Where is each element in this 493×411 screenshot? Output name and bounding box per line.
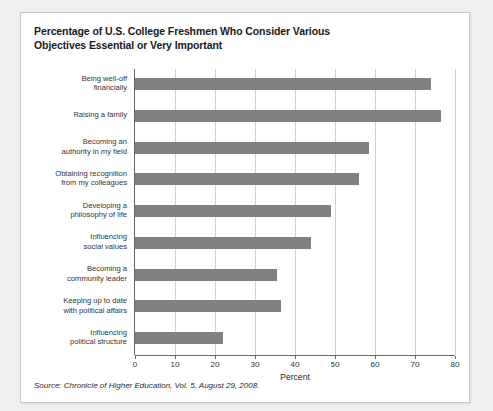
tick-mark-50	[335, 356, 336, 359]
bar-row: Developing aphilosophy of life	[135, 196, 455, 228]
x-axis-ticks: 01020304050607080	[135, 356, 455, 370]
category-label-line: with political affairs	[19, 306, 127, 316]
tick-label-60: 60	[360, 360, 390, 369]
category-label-line: authority in my field	[19, 147, 127, 157]
bar-row: Obtaining recognitionfrom my colleagues	[135, 164, 455, 196]
category-label-line: Influencing	[19, 328, 127, 338]
category-label-line: Becoming a	[19, 264, 127, 274]
bar-row: Influencingsocial values	[135, 228, 455, 260]
bar-series: Being well-offfinanciallyRaising a famil…	[135, 69, 455, 355]
tick-label-30: 30	[240, 360, 270, 369]
category-label-line: political structure	[19, 337, 127, 347]
bar-row: Influencingpolitical structure	[135, 323, 455, 355]
bar	[135, 173, 359, 185]
bar-row: Raising a family	[135, 101, 455, 133]
plot-area: Being well-offfinanciallyRaising a famil…	[134, 69, 455, 355]
category-label-line: Obtaining recognition	[19, 169, 127, 179]
category-label-line: Being well-off	[19, 74, 127, 84]
tick-label-40: 40	[280, 360, 310, 369]
tick-mark-0	[135, 356, 136, 359]
tick-mark-40	[295, 356, 296, 359]
chart-title: Percentage of U.S. College Freshmen Who …	[34, 24, 374, 52]
source-note: Source: Chronicle of Higher Education, V…	[34, 381, 259, 390]
category-label: Becoming anauthority in my field	[19, 137, 127, 156]
gridline-80	[455, 69, 456, 355]
category-label: Keeping up to datewith political affairs	[19, 296, 127, 315]
category-label: Developing aphilosophy of life	[19, 201, 127, 220]
category-label-line: community leader	[19, 274, 127, 284]
tick-mark-60	[375, 356, 376, 359]
tick-mark-80	[455, 356, 456, 359]
bar	[135, 110, 441, 122]
tick-label-70: 70	[400, 360, 430, 369]
tick-mark-20	[215, 356, 216, 359]
tick-label-10: 10	[160, 360, 190, 369]
chart-title-line-2: Objectives Essential or Very Important	[34, 38, 374, 52]
category-label-line: Raising a family	[19, 110, 127, 120]
chart-title-line-1: Percentage of U.S. College Freshmen Who …	[34, 24, 374, 38]
category-label: Being well-offfinancially	[19, 74, 127, 93]
bar-row: Keeping up to datewith political affairs	[135, 291, 455, 323]
category-label-line: philosophy of life	[19, 210, 127, 220]
category-label-line: Developing a	[19, 201, 127, 211]
bar	[135, 205, 331, 217]
category-label: Raising a family	[19, 110, 127, 120]
chart-card: Percentage of U.S. College Freshmen Who …	[20, 12, 470, 403]
bar	[135, 78, 431, 90]
category-label-line: Influencing	[19, 232, 127, 242]
tick-mark-10	[175, 356, 176, 359]
category-label-line: social values	[19, 242, 127, 252]
bar	[135, 142, 369, 154]
bar	[135, 269, 277, 281]
tick-mark-30	[255, 356, 256, 359]
tick-label-20: 20	[200, 360, 230, 369]
bar	[135, 332, 223, 344]
category-label: Influencingsocial values	[19, 232, 127, 251]
category-label: Influencingpolitical structure	[19, 328, 127, 347]
bar	[135, 300, 281, 312]
bar-row: Becoming acommunity leader	[135, 260, 455, 292]
category-label-line: Keeping up to date	[19, 296, 127, 306]
tick-mark-70	[415, 356, 416, 359]
tick-label-80: 80	[440, 360, 470, 369]
bar-row: Being well-offfinancially	[135, 69, 455, 101]
category-label-line: financially	[19, 83, 127, 93]
bar-row: Becoming anauthority in my field	[135, 133, 455, 165]
screenshot-root: Percentage of U.S. College Freshmen Who …	[0, 0, 493, 411]
category-label: Becoming acommunity leader	[19, 264, 127, 283]
category-label: Obtaining recognitionfrom my colleagues	[19, 169, 127, 188]
tick-label-0: 0	[120, 360, 150, 369]
tick-label-50: 50	[320, 360, 350, 369]
bar	[135, 237, 311, 249]
category-label-line: Becoming an	[19, 137, 127, 147]
category-label-line: from my colleagues	[19, 178, 127, 188]
